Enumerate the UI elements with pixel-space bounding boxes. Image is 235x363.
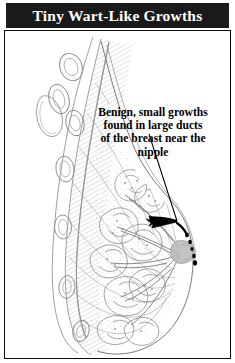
glandular-lobules-group	[75, 127, 180, 345]
page-title: Tiny Wart-Like Growths	[33, 8, 203, 24]
illustration-panel: Benign, small growths found in large duc…	[4, 30, 231, 359]
breast-anatomy-illustration	[5, 31, 230, 358]
title-banner: Tiny Wart-Like Growths	[6, 3, 229, 28]
figure-container: Tiny Wart-Like Growths	[0, 0, 235, 363]
nipple-areola-group	[171, 240, 196, 263]
